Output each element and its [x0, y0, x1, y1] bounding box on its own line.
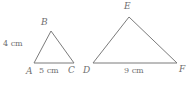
- measurement-label-df: 9 cm: [124, 67, 144, 75]
- triangle-def-shape: [93, 17, 177, 63]
- measurement-label-ac: 5 cm: [39, 67, 59, 75]
- triangle-def-outline: [93, 17, 177, 63]
- measurement-label-ab: 4 cm: [3, 40, 23, 48]
- triangle-abc-shape: [34, 31, 74, 63]
- vertex-label-b: B: [41, 18, 48, 27]
- vertex-label-e: E: [124, 2, 131, 11]
- vertex-label-f: F: [179, 65, 185, 74]
- triangle-abc-outline: [34, 31, 74, 63]
- vertex-label-a: A: [26, 67, 33, 76]
- geometry-figure: B A C 4 cm 5 cm E D F 9 cm: [0, 0, 188, 86]
- vertex-label-d: D: [83, 66, 90, 75]
- vertex-label-c: C: [68, 66, 75, 75]
